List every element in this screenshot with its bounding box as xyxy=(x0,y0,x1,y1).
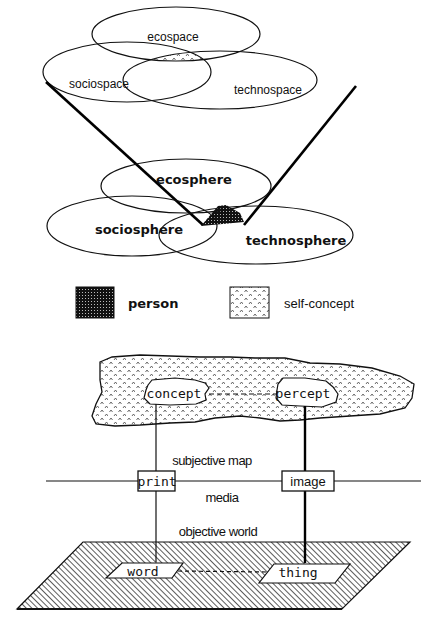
sociospace-label: sociospace xyxy=(69,77,129,91)
subjective-map-label: subjective map xyxy=(172,453,252,468)
sociosphere-label: sociosphere xyxy=(95,222,183,237)
technospace-label: technospace xyxy=(234,83,302,97)
ecosphere-label: ecosphere xyxy=(156,172,232,187)
percept-label: percept xyxy=(276,386,331,401)
lower-venn: ecosphere sociosphere technosphere xyxy=(47,159,353,264)
media-line: print image xyxy=(46,471,421,491)
legend-self-concept-label: self-concept xyxy=(284,296,354,311)
legend: person self-concept xyxy=(76,287,354,318)
cloud-shape xyxy=(92,355,414,426)
concept-label: concept xyxy=(147,386,202,401)
objective-world-label: objective world xyxy=(179,524,258,539)
media-label: media xyxy=(206,490,240,505)
subjective-map-cloud: concept percept xyxy=(92,355,414,426)
objective-world-plane: word thing xyxy=(17,542,410,609)
technosphere-label: technosphere xyxy=(246,233,347,248)
technospace-circle xyxy=(123,51,317,109)
ecospace-label: ecospace xyxy=(147,30,199,44)
image-label: image xyxy=(290,474,325,489)
thing-label: thing xyxy=(278,565,317,580)
diagram-canvas: ecospace sociospace technospace ecospher… xyxy=(0,0,441,639)
word-label: word xyxy=(127,564,158,579)
legend-self-concept-swatch xyxy=(230,287,269,318)
upper-venn: ecospace sociospace technospace xyxy=(43,7,317,109)
cone-lines xyxy=(46,82,356,225)
legend-person-label: person xyxy=(128,296,178,311)
print-label: print xyxy=(137,474,176,489)
legend-person-swatch xyxy=(76,287,114,318)
